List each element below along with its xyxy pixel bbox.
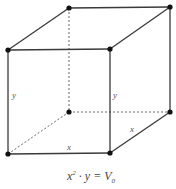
- vertex-front-bottom-left: [5, 151, 10, 156]
- edge-bottom-right-depth: [110, 112, 170, 153]
- label-depth-right: x: [129, 124, 134, 134]
- vertex-front-top-right: [107, 46, 112, 51]
- label-width-front: x: [66, 142, 71, 152]
- edge-back-top: [69, 7, 170, 8]
- edge-front-bottom: [8, 153, 110, 154]
- label-height-right: y: [112, 90, 117, 100]
- box-diagram: y y x x x2 · y = V0: [0, 0, 176, 189]
- edge-top-left-depth: [8, 8, 69, 50]
- vertex-back-bottom-right: [167, 109, 172, 114]
- vertex-back-bottom-left: [66, 109, 71, 114]
- vertex-back-top-right: [167, 4, 172, 9]
- vertex-front-bottom-right: [107, 150, 112, 155]
- hidden-edge-bottom-left-depth: [8, 112, 69, 154]
- label-height-left: y: [11, 90, 16, 100]
- edge-front-top: [8, 49, 110, 50]
- volume-formula: x2 · y = V0: [66, 169, 116, 185]
- vertex-back-top-left: [66, 5, 71, 10]
- vertex-front-top-left: [5, 47, 10, 52]
- edge-top-right-depth: [110, 7, 170, 49]
